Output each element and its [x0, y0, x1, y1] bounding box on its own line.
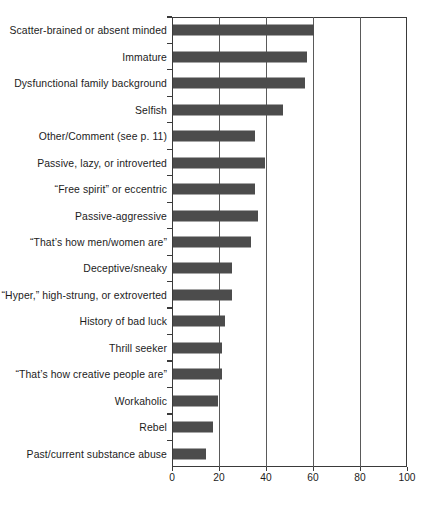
category-label: Other/Comment (see p. 11) [39, 131, 167, 142]
bar [173, 210, 258, 221]
bar-row: “That’s how men/women are” [0, 229, 427, 255]
bar [173, 342, 222, 353]
bar [173, 184, 255, 195]
bar [173, 395, 218, 406]
y-tick [167, 334, 173, 335]
y-tick [167, 307, 173, 308]
bar [173, 51, 307, 62]
y-tick [167, 16, 173, 17]
bar-row: Dysfunctional family background [0, 70, 427, 96]
x-tick-label: 80 [354, 472, 365, 483]
category-label: Past/current substance abuse [27, 448, 167, 459]
category-label: Passive, lazy, or introverted [37, 157, 167, 168]
bar-row: Selfish [0, 96, 427, 122]
x-tick-100 [407, 467, 408, 471]
bar-row: “That’s how creative people are” [0, 361, 427, 387]
x-tick-20 [219, 467, 220, 471]
bar-row: Other/Comment (see p. 11) [0, 123, 427, 149]
bar-row: Workaholic [0, 388, 427, 414]
bar-row: Immature [0, 43, 427, 69]
x-tick-label: 20 [213, 472, 224, 483]
y-tick [167, 255, 173, 256]
bar [173, 448, 206, 459]
category-label: “That’s how creative people are” [15, 369, 167, 380]
category-label: History of bad luck [80, 316, 167, 327]
bar-row: Deceptive/sneaky [0, 255, 427, 281]
bar [173, 157, 265, 168]
x-tick-label: 60 [307, 472, 318, 483]
bar-row: Passive-aggressive [0, 202, 427, 228]
category-label: Passive-aggressive [75, 210, 167, 221]
bar-row: Passive, lazy, or introverted [0, 149, 427, 175]
bar-row: Scatter-brained or absent minded [0, 17, 427, 43]
category-label: “That’s how men/women are” [30, 236, 167, 247]
x-tick-60 [313, 467, 314, 471]
y-tick [167, 413, 173, 414]
bar [173, 316, 225, 327]
category-label: Workaholic [115, 395, 167, 406]
bar-row: Past/current substance abuse [0, 441, 427, 467]
bar-row: “Free spirit” or eccentric [0, 176, 427, 202]
bar [173, 104, 283, 115]
y-tick [167, 122, 173, 123]
y-tick [167, 175, 173, 176]
y-tick [167, 387, 173, 388]
category-label: “Hyper,” high-strung, or extroverted [2, 289, 167, 300]
x-tick-0 [172, 467, 173, 471]
bar-chart: Scatter-brained or absent mindedImmature… [0, 0, 427, 521]
bar [173, 236, 251, 247]
bar [173, 131, 255, 142]
category-label: Selfish [135, 104, 167, 115]
bar-rows: Scatter-brained or absent mindedImmature… [0, 17, 427, 467]
y-tick [167, 360, 173, 361]
x-tick-label: 100 [399, 472, 416, 483]
y-tick [167, 149, 173, 150]
bar [173, 25, 314, 36]
category-label: Rebel [139, 422, 167, 433]
y-tick [167, 43, 173, 44]
bar [173, 422, 213, 433]
y-tick [167, 202, 173, 203]
y-tick [167, 440, 173, 441]
y-tick [167, 228, 173, 229]
category-label: Thrill seeker [109, 342, 167, 353]
bar [173, 289, 232, 300]
category-label: Scatter-brained or absent minded [9, 25, 167, 36]
x-tick-80 [360, 467, 361, 471]
bar-row: Thrill seeker [0, 335, 427, 361]
x-tick-40 [266, 467, 267, 471]
y-tick [167, 96, 173, 97]
y-tick [167, 69, 173, 70]
category-label: Deceptive/sneaky [83, 263, 167, 274]
x-tick-label: 40 [260, 472, 271, 483]
category-label: Immature [122, 51, 167, 62]
bar-row: “Hyper,” high-strung, or extroverted [0, 282, 427, 308]
category-label: “Free spirit” or eccentric [55, 184, 167, 195]
bar-row: History of bad luck [0, 308, 427, 334]
category-label: Dysfunctional family background [14, 78, 167, 89]
bar [173, 78, 305, 89]
x-tick-label: 0 [169, 472, 175, 483]
bar [173, 369, 222, 380]
y-tick [167, 281, 173, 282]
bar-row: Rebel [0, 414, 427, 440]
bar [173, 263, 232, 274]
